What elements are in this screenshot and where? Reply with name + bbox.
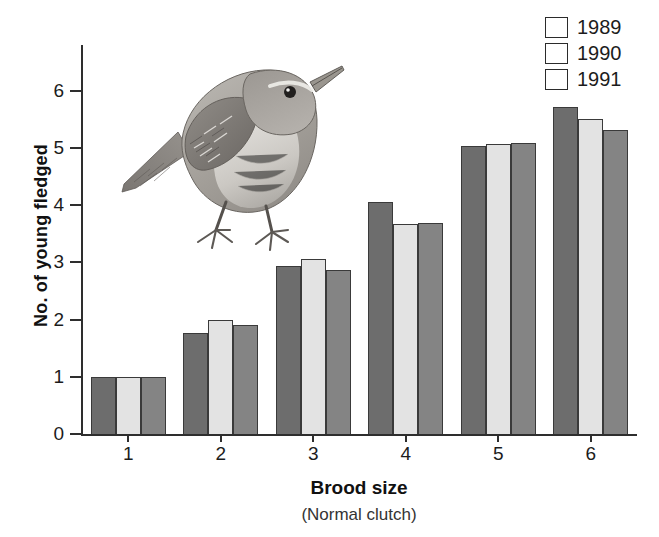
bar-1991-6 [603, 130, 628, 434]
bar-1989-6 [553, 107, 578, 434]
bar-1991-2 [233, 325, 258, 434]
y-axis-tick-label: 0 [38, 424, 64, 443]
y-axis-tick [70, 376, 82, 378]
bar-1989-2 [183, 333, 208, 434]
y-axis-tick [70, 204, 82, 206]
y-axis-tick-label: 5 [38, 138, 64, 157]
y-axis-tick [70, 261, 82, 263]
legend-swatch-1989 [545, 17, 568, 38]
x-axis-tick [127, 434, 129, 442]
bar-chart-figure: No. of young fledged 0123456 123456 Broo… [0, 0, 659, 537]
legend-item: 1989 [545, 14, 655, 40]
y-axis-tick-label: 3 [38, 252, 64, 271]
x-axis-tick-label: 3 [293, 444, 333, 463]
x-axis-tick-label: 4 [386, 444, 426, 463]
y-axis-tick-label: 2 [38, 310, 64, 329]
bar-1989-4 [368, 202, 393, 434]
x-axis-tick [590, 434, 592, 442]
bar-1991-4 [418, 223, 443, 434]
x-axis-tick-label: 2 [201, 444, 241, 463]
bar-1991-5 [511, 143, 536, 434]
legend-item: 1991 [545, 66, 655, 92]
x-axis-tick-label: 1 [108, 444, 148, 463]
bar-1989-3 [276, 266, 301, 434]
legend-swatch-1991 [545, 69, 568, 90]
y-axis-tick-label: 4 [38, 195, 64, 214]
x-axis-sublabel: (Normal clutch) [81, 505, 637, 525]
x-axis-tick [312, 434, 314, 442]
wren-bird-illustration [120, 36, 346, 266]
x-axis-tick [220, 434, 222, 442]
x-axis-line [81, 434, 637, 436]
x-axis-tick-label: 6 [571, 444, 611, 463]
y-axis-tick [70, 433, 82, 435]
legend-item: 1990 [545, 40, 655, 66]
bar-1989-5 [461, 146, 486, 434]
legend-swatch-1990 [545, 43, 568, 64]
legend-label-1989: 1989 [577, 17, 622, 37]
bar-1990-6 [578, 119, 603, 434]
y-axis-tick-label: 6 [38, 81, 64, 100]
bar-1990-3 [301, 259, 326, 434]
x-axis-label: Brood size [81, 477, 637, 499]
bar-1989-1 [91, 377, 116, 434]
bar-1990-2 [208, 320, 233, 434]
bar-1991-3 [326, 270, 351, 434]
legend: 1989 1990 1991 [545, 14, 655, 92]
x-axis-tick [497, 434, 499, 442]
y-axis-tick [70, 147, 82, 149]
x-axis-tick [405, 434, 407, 442]
legend-label-1990: 1990 [577, 43, 622, 63]
y-axis-tick-label: 1 [38, 367, 64, 386]
bar-1990-5 [486, 144, 511, 434]
bar-1990-4 [393, 224, 418, 434]
y-axis-tick [70, 319, 82, 321]
y-axis-tick [70, 90, 82, 92]
bar-1991-1 [141, 377, 166, 434]
bar-1990-1 [116, 377, 141, 434]
x-axis-tick-label: 5 [478, 444, 518, 463]
legend-label-1991: 1991 [577, 69, 622, 89]
